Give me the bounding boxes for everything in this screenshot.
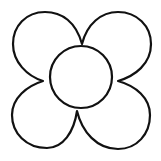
- flower-drawing: [0, 0, 161, 161]
- flower-icon: [0, 0, 161, 161]
- flower-center-circle: [50, 46, 112, 108]
